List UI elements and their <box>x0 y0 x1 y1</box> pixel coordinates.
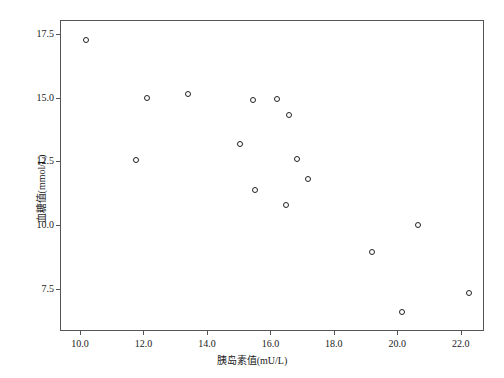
x-axis-tick <box>80 330 81 335</box>
plot-frame: 17.515.012.510.07.510.012.014.016.018.02… <box>60 20 484 331</box>
data-point <box>250 97 256 103</box>
x-axis-tick <box>143 330 144 335</box>
y-axis-tick <box>56 98 61 99</box>
y-axis-tick <box>56 289 61 290</box>
x-axis-tick-label: 14.0 <box>198 339 216 349</box>
plot-area <box>61 21 483 330</box>
x-axis-tick-label: 16.0 <box>262 339 280 349</box>
x-axis-tick-label: 10.0 <box>71 339 89 349</box>
y-axis-tick <box>56 34 61 35</box>
data-point <box>369 249 375 255</box>
data-point <box>83 37 89 43</box>
data-point <box>399 309 405 315</box>
x-axis-tick <box>461 330 462 335</box>
data-point <box>283 202 289 208</box>
data-point <box>466 290 472 296</box>
x-axis-tick <box>207 330 208 335</box>
x-axis-tick <box>397 330 398 335</box>
data-point <box>286 112 292 118</box>
y-axis-tick-label: 17.5 <box>37 29 55 39</box>
data-point <box>305 176 311 182</box>
scatter-chart-figure: 17.515.012.510.07.510.012.014.016.018.02… <box>0 0 504 378</box>
y-axis-tick-label: 7.5 <box>42 284 55 294</box>
x-axis-tick <box>270 330 271 335</box>
data-point <box>252 187 258 193</box>
data-point <box>237 141 243 147</box>
y-axis-title: 血糖值(mmol/L) <box>37 155 47 224</box>
x-axis-tick-label: 18.0 <box>325 339 343 349</box>
data-point <box>133 157 139 163</box>
data-point <box>185 91 191 97</box>
data-point <box>144 95 150 101</box>
data-point <box>415 222 421 228</box>
x-axis-title: 胰岛素值(mU/L) <box>0 356 504 366</box>
y-axis-tick <box>56 161 61 162</box>
x-axis-tick-label: 20.0 <box>389 339 407 349</box>
data-point <box>274 96 280 102</box>
x-axis-tick <box>334 330 335 335</box>
y-axis-tick <box>56 225 61 226</box>
x-axis-tick-label: 22.0 <box>452 339 470 349</box>
y-axis-tick-label: 15.0 <box>37 93 55 103</box>
x-axis-tick-label: 12.0 <box>135 339 153 349</box>
data-point <box>294 156 300 162</box>
